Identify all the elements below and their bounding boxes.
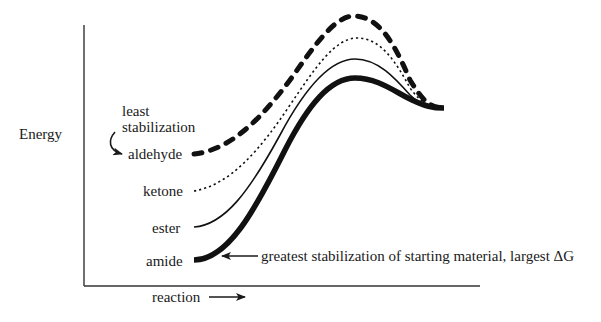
aldehyde-curve xyxy=(194,16,444,154)
greatest-stabilization-annotation: greatest stabilization of starting mater… xyxy=(261,248,574,264)
x-axis-label: reaction xyxy=(152,289,200,305)
least-stabilization-line1: least xyxy=(122,103,150,119)
curved-arrow-icon xyxy=(110,132,122,154)
ketone-label: ketone xyxy=(143,183,183,199)
diagram-graphics xyxy=(0,0,601,322)
ester-curve xyxy=(194,59,444,227)
ester-label: ester xyxy=(152,220,180,236)
amide-label: amide xyxy=(146,253,183,269)
y-axis-label: Energy xyxy=(19,126,62,142)
least-stabilization-line2: stabilization xyxy=(122,119,195,135)
aldehyde-label: aldehyde xyxy=(128,146,182,162)
amide-curve xyxy=(194,78,444,260)
ketone-curve xyxy=(194,38,444,191)
